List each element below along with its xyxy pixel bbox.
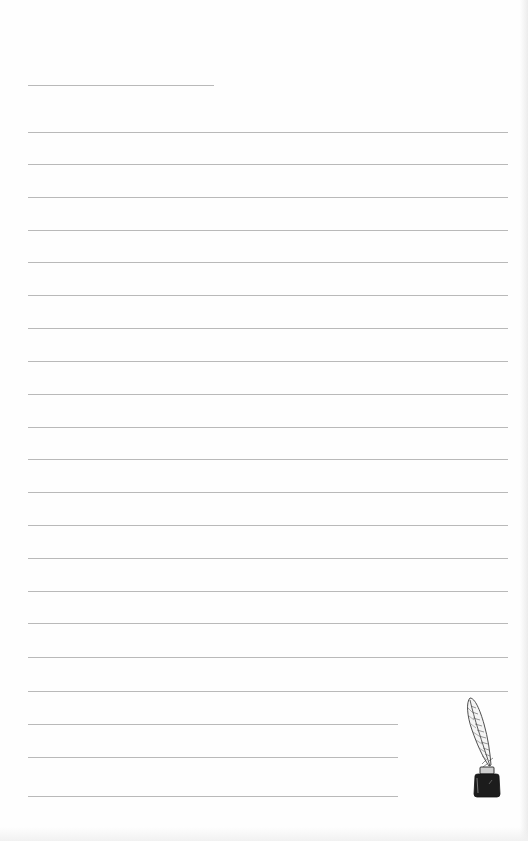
short-writing-line <box>28 724 398 725</box>
title-rule-line <box>28 85 214 86</box>
writing-line <box>28 591 508 592</box>
writing-line <box>28 558 508 559</box>
writing-line <box>28 691 508 692</box>
lined-writing-page <box>0 0 528 841</box>
writing-line <box>28 230 508 231</box>
writing-line <box>28 459 508 460</box>
writing-line <box>28 427 508 428</box>
writing-line <box>28 492 508 493</box>
writing-line <box>28 525 508 526</box>
writing-line <box>28 262 508 263</box>
writing-line <box>28 623 508 624</box>
writing-line <box>28 164 508 165</box>
writing-line <box>28 295 508 296</box>
short-writing-line <box>28 796 398 797</box>
page-bottom-shadow <box>0 827 528 841</box>
writing-line <box>28 394 508 395</box>
writing-line <box>28 328 508 329</box>
writing-line <box>28 197 508 198</box>
writing-line <box>28 132 508 133</box>
short-writing-line <box>28 757 398 758</box>
quill-inkwell-icon <box>462 694 508 800</box>
writing-line <box>28 361 508 362</box>
page-edge-shadow <box>520 0 528 841</box>
writing-line <box>28 657 508 658</box>
